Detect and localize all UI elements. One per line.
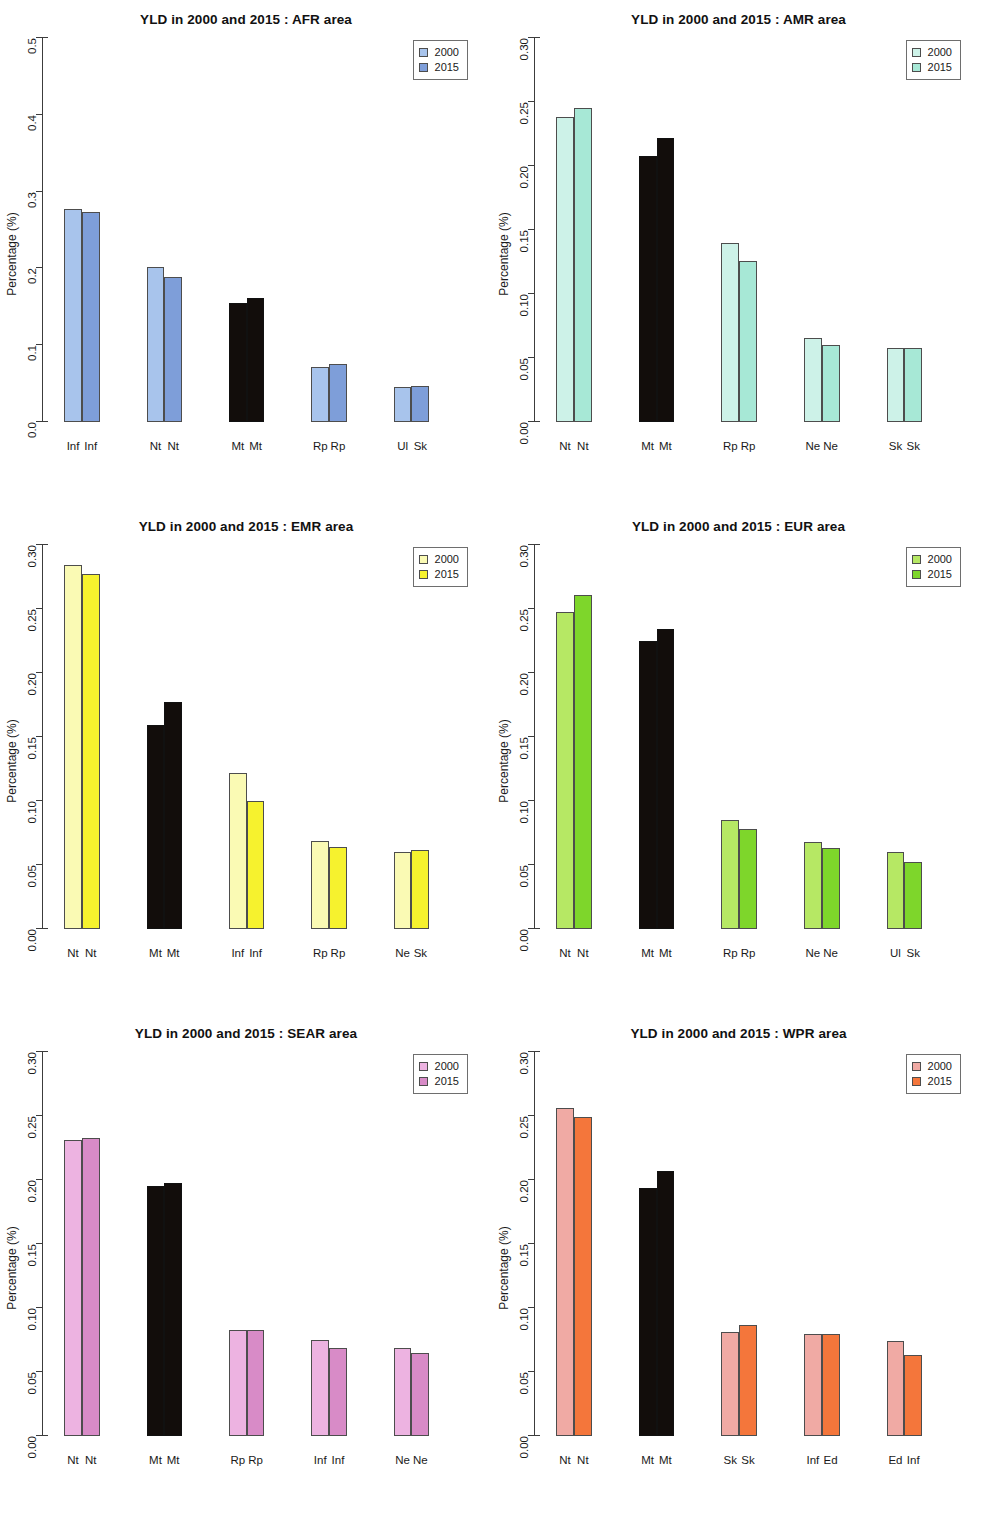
legend-item-2015: 2015 [912, 567, 952, 582]
x-axis-tick-label: Mt [641, 947, 654, 959]
x-axis-tick-label: Ul [890, 947, 901, 959]
chart-panel-emr: YLD in 2000 and 2015 : EMR areaPercentag… [0, 507, 492, 1014]
bar-wpr-mt-2000 [639, 1188, 657, 1436]
x-axis-tick-label: Mt [249, 440, 262, 452]
y-axis-tick-label: 0.15 [518, 1244, 530, 1266]
y-axis-tick-label: 0.25 [518, 1116, 530, 1138]
bar-emr-nt-2015 [82, 574, 100, 929]
y-axis-cap-bottom [42, 928, 48, 929]
legend-swatch-icon [419, 555, 428, 564]
y-axis-cap-bottom [42, 421, 48, 422]
bar-sear-inf-2000 [311, 1340, 329, 1436]
bars-layer [58, 38, 470, 422]
y-axis-tick-label: 0.15 [518, 737, 530, 759]
x-axis-tick-label: Sk [414, 947, 427, 959]
y-axis-tick-label: 0.10 [26, 1308, 38, 1330]
bars-layer [550, 545, 963, 929]
y-axis-tick-label: 0.00 [26, 1436, 38, 1458]
y-axis-tick-label: 0.20 [518, 673, 530, 695]
y-axis-tick-label: 0.20 [518, 166, 530, 188]
x-axis-tick-label: Sk [414, 440, 427, 452]
legend-item-2000: 2000 [912, 1059, 952, 1074]
y-axis-cap-top [42, 1051, 48, 1052]
bar-emr-inf-2000 [229, 773, 247, 929]
legend-swatch-icon [912, 1062, 921, 1071]
x-axis-labels: InfInfNtNtMtMtRpRpUlSk [58, 434, 470, 452]
x-axis-tick-label: Mt [659, 1454, 672, 1466]
bar-sear-rp-2015 [247, 1330, 265, 1436]
bar-eur-sk-2015 [904, 862, 922, 929]
bar-emr-sk-2015 [411, 850, 429, 929]
x-axis-tick-label: Nt [150, 440, 162, 452]
legend-swatch-icon [912, 48, 921, 57]
x-axis-tick-label: Rp [723, 440, 738, 452]
y-axis-tick-label: 0.10 [518, 294, 530, 316]
bar-wpr-nt-2015 [574, 1117, 592, 1436]
legend-item-2015: 2015 [419, 60, 459, 75]
x-axis-tick-label: Mt [659, 947, 672, 959]
legend-swatch-icon [419, 570, 428, 579]
bar-emr-rp-2000 [311, 841, 329, 929]
panel-title: YLD in 2000 and 2015 : EMR area [0, 519, 492, 534]
bar-eur-ne-2015 [822, 848, 840, 929]
chart-legend: 20002015 [906, 1054, 961, 1094]
bar-amr-rp-2015 [739, 261, 757, 422]
bar-afr-mt-2015 [247, 298, 265, 422]
plot-area: 0.000.050.100.150.200.250.30 [550, 1052, 963, 1436]
y-axis-line [42, 1052, 43, 1436]
chart-legend: 20002015 [413, 547, 468, 587]
bar-sear-nt-2015 [82, 1138, 100, 1436]
x-axis-tick-label: Mt [641, 1454, 654, 1466]
chart-panel-sear: YLD in 2000 and 2015 : SEAR areaPercenta… [0, 1014, 492, 1521]
x-axis-tick-label: Nt [167, 440, 179, 452]
x-axis-tick-label: Mt [659, 440, 672, 452]
bar-amr-nt-2000 [556, 117, 574, 422]
legend-item-2000: 2000 [912, 45, 952, 60]
y-axis-tick-label: 0.4 [26, 115, 38, 131]
legend-item-2000: 2000 [419, 552, 459, 567]
x-axis-tick-label: Rp [331, 440, 346, 452]
y-axis-tick-label: 0.10 [26, 801, 38, 823]
x-axis-tick-label: Ne [395, 947, 410, 959]
chart-legend: 20002015 [413, 40, 468, 80]
x-axis-tick-label: Nt [85, 947, 97, 959]
y-axis-title: Percentage (%) [5, 212, 19, 295]
y-axis-tick-label: 0.00 [518, 1436, 530, 1458]
legend-label: 2015 [435, 1076, 459, 1087]
y-axis-tick-label: 0.30 [518, 38, 530, 60]
bar-wpr-ed-2000 [887, 1341, 905, 1436]
y-axis-tick-label: 0.20 [26, 1180, 38, 1202]
y-axis-title: Percentage (%) [5, 719, 19, 802]
y-axis-tick-label: 0.30 [26, 1052, 38, 1074]
chart-legend: 20002015 [906, 547, 961, 587]
x-axis-tick-label: Mt [149, 947, 162, 959]
y-axis-tick-label: 0.25 [518, 102, 530, 124]
bar-eur-rp-2015 [739, 829, 757, 929]
y-axis-tick-label: 0.00 [518, 929, 530, 951]
bar-amr-sk-2015 [904, 348, 922, 422]
x-axis-tick-label: Nt [559, 947, 571, 959]
x-axis-tick-label: Sk [724, 1454, 737, 1466]
x-axis-tick-label: Rp [741, 947, 756, 959]
y-axis-tick-label: 0.05 [518, 358, 530, 380]
bar-sear-mt-2015 [164, 1183, 182, 1436]
panel-title: YLD in 2000 and 2015 : AFR area [0, 12, 492, 27]
legend-label: 2000 [928, 554, 952, 565]
plot-area: 0.000.050.100.150.200.250.30 [58, 545, 470, 929]
legend-item-2015: 2015 [419, 1074, 459, 1089]
x-axis-tick-label: Ne [823, 947, 838, 959]
y-axis-title: Percentage (%) [5, 1226, 19, 1309]
x-axis-labels: NtNtMtMtRpRpInfInfNeNe [58, 1448, 470, 1466]
y-axis-tick-label: 0.30 [518, 1052, 530, 1074]
x-axis-tick-label: Rp [248, 1454, 263, 1466]
x-axis-tick-label: Nt [67, 947, 79, 959]
x-axis-tick-label: Inf [84, 440, 97, 452]
x-axis-tick-label: Nt [577, 1454, 589, 1466]
y-axis-title: Percentage (%) [497, 1226, 511, 1309]
y-axis-tick-label: 0.1 [26, 345, 38, 361]
bar-afr-ul-2000 [394, 387, 412, 422]
x-axis-tick-label: Rp [331, 947, 346, 959]
chart-legend: 20002015 [906, 40, 961, 80]
legend-swatch-icon [912, 570, 921, 579]
x-axis-tick-label: Sk [741, 1454, 754, 1466]
